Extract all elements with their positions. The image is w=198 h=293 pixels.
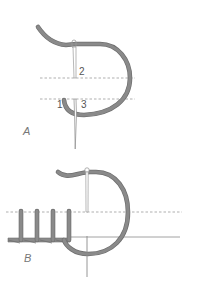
panel-label-b: B	[24, 252, 31, 264]
step-label-3: 3	[81, 99, 87, 110]
completed-stitches	[8, 211, 70, 243]
panel-a: 2 1 3 A	[22, 27, 135, 149]
needle-lower-a	[74, 99, 77, 149]
step-label-2: 2	[79, 66, 85, 77]
panel-label-a: A	[22, 125, 30, 137]
stitch-diagram: 2 1 3 A	[0, 0, 198, 293]
needle-b	[85, 168, 89, 277]
step-label-1: 1	[57, 99, 63, 110]
panel-b: B	[6, 168, 182, 277]
